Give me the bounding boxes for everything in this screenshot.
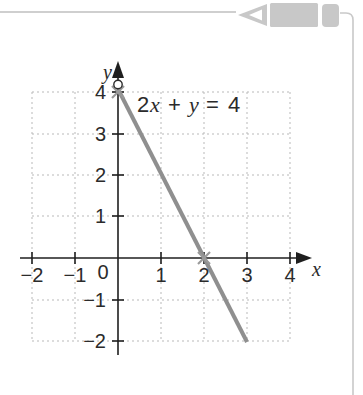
x-tick-label-0: 0 — [97, 261, 108, 283]
equation-var-x: x — [149, 92, 160, 117]
frame-border — [340, 13, 353, 395]
y-tick-label-neg1: −1 — [83, 289, 106, 311]
x-tick-label-neg2: −2 — [21, 264, 44, 286]
figure-canvas: 4 3 2 1 −1 −2 −2 −1 0 1 2 3 4 y x 2 x + … — [0, 0, 363, 395]
axes — [20, 61, 312, 355]
y-tick-label-2: 2 — [95, 164, 106, 186]
x-tick-label-3: 3 — [241, 264, 252, 286]
equation-var-y: y — [187, 92, 199, 117]
x-tick-label-1: 1 — [155, 264, 166, 286]
open-circle-marker — [114, 80, 122, 88]
y-tick-label-1: 1 — [95, 205, 106, 227]
y-tick-labels: 4 3 2 1 −1 −2 — [83, 81, 106, 352]
y-tick-label-neg2: −2 — [83, 330, 106, 352]
x-tick-label-4: 4 — [284, 264, 295, 286]
pencil-icon — [238, 3, 339, 27]
pencil-eraser — [322, 4, 339, 27]
x-axis-label: x — [311, 258, 321, 280]
x-tick-label-2: 2 — [198, 264, 209, 286]
x-tick-label-neg1: −1 — [64, 264, 87, 286]
equation-equals: = — [206, 92, 219, 117]
equation-plus: + — [168, 92, 181, 117]
y-axis-arrow — [112, 61, 124, 78]
y-tick-label-3: 3 — [95, 123, 106, 145]
equation-coef: 2 — [137, 92, 149, 117]
y-tick-label-4: 4 — [95, 81, 106, 103]
x-tick-labels: −2 −1 0 1 2 3 4 — [21, 261, 296, 286]
equation-annotation: 2 x + y = 4 — [137, 92, 240, 117]
textbook-figure: 4 3 2 1 −1 −2 −2 −1 0 1 2 3 4 y x 2 x + … — [0, 0, 363, 395]
equation-rhs: 4 — [228, 92, 240, 117]
x-axis-arrow — [296, 252, 312, 264]
pencil-body — [270, 3, 318, 27]
grid — [32, 92, 290, 341]
y-axis-label: y — [101, 61, 112, 84]
